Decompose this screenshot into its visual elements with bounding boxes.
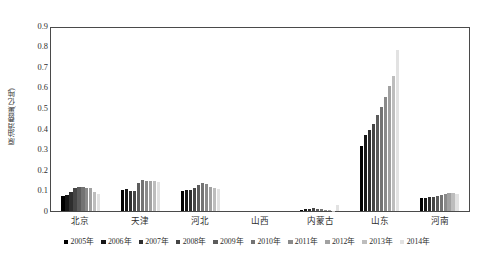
legend-swatch-icon	[176, 240, 181, 245]
legend-label: 2009年	[220, 238, 244, 246]
bar	[432, 197, 435, 211]
bar	[149, 181, 152, 212]
legend-swatch-icon	[251, 240, 256, 245]
legend-item[interactable]: 2008年	[176, 238, 206, 246]
legend-swatch-icon	[101, 240, 106, 245]
chart-legend: 2005年2006年2007年2008年2009年2010年2011年2012年…	[0, 238, 494, 246]
bar	[209, 187, 212, 211]
bar	[65, 195, 68, 211]
bar-groups	[51, 28, 469, 211]
bar	[428, 197, 431, 211]
bar	[444, 194, 447, 211]
y-axis-tick-8: 0.1	[22, 187, 48, 195]
y-axis-tick-7: 0.2	[22, 167, 48, 175]
legend-item[interactable]: 2011年	[288, 238, 318, 246]
bar	[396, 50, 399, 211]
x-axis-label-5: 山东	[350, 214, 410, 230]
bar	[376, 115, 379, 211]
legend-label: 2007年	[145, 238, 169, 246]
bar	[328, 210, 331, 211]
x-axis-label-1: 天津	[110, 214, 170, 230]
y-axis-tick-labels: 0.90.80.70.60.50.40.30.20.10	[18, 0, 48, 260]
x-axis-label-6: 河南	[410, 214, 470, 230]
bar	[145, 181, 148, 212]
y-axis-tick-4: 0.5	[22, 105, 48, 113]
bar	[304, 209, 307, 211]
legend-swatch-icon	[400, 240, 405, 245]
x-axis-label-4: 内蒙古	[290, 214, 350, 230]
bar	[69, 192, 72, 211]
bar	[300, 210, 303, 211]
legend-item[interactable]: 2006年	[101, 238, 131, 246]
bar	[316, 209, 319, 211]
bar	[424, 198, 427, 211]
legend-label: 2008年	[183, 238, 207, 246]
y-axis-tick-2: 0.7	[22, 64, 48, 72]
legend-swatch-icon	[64, 240, 69, 245]
bar	[320, 209, 323, 211]
bar	[181, 191, 184, 211]
bar	[384, 97, 387, 211]
bar	[129, 191, 132, 211]
bar-group	[350, 28, 410, 211]
bar-group	[230, 28, 290, 211]
legend-swatch-icon	[325, 240, 330, 245]
bar	[73, 188, 76, 211]
bar	[380, 107, 383, 211]
x-axis-label-0: 北京	[50, 214, 110, 230]
plot-area	[50, 27, 470, 212]
legend-label: 2013年	[369, 238, 393, 246]
bar	[360, 146, 363, 211]
x-axis-label-3: 山西	[230, 214, 290, 230]
bar	[388, 86, 391, 211]
bar	[193, 188, 196, 211]
bar	[77, 187, 80, 211]
bar	[197, 185, 200, 211]
bar	[308, 209, 311, 211]
legend-item[interactable]: 2012年	[325, 238, 355, 246]
bar	[420, 198, 423, 211]
bar	[213, 188, 216, 211]
bar	[157, 182, 160, 211]
y-axis-title-text: 原油消费量(亿吨)	[6, 88, 17, 146]
bar	[364, 135, 367, 211]
bar	[61, 196, 64, 211]
legend-item[interactable]: 2010年	[251, 238, 281, 246]
legend-label: 2005年	[71, 238, 95, 246]
bar	[121, 190, 124, 211]
bar	[205, 184, 208, 211]
y-axis-tick-5: 0.4	[22, 126, 48, 134]
legend-swatch-icon	[362, 240, 367, 245]
y-axis-tick-9: 0	[22, 208, 48, 216]
legend-swatch-icon	[139, 240, 144, 245]
bar	[93, 192, 96, 211]
bar	[153, 181, 156, 211]
legend-swatch-icon	[213, 240, 218, 245]
legend-item[interactable]: 2009年	[213, 238, 243, 246]
x-axis-label-2: 河北	[170, 214, 230, 230]
legend-swatch-icon	[288, 240, 293, 245]
legend-item[interactable]: 2013年	[362, 238, 392, 246]
bar	[189, 190, 192, 211]
bar	[97, 194, 100, 211]
chart-figure: 原油消费量(亿吨) 0.90.80.70.60.50.40.30.20.10 北…	[0, 0, 494, 260]
legend-item[interactable]: 2007年	[139, 238, 169, 246]
bar-group	[51, 28, 111, 211]
bar	[455, 194, 458, 211]
bar	[185, 190, 188, 211]
legend-label: 2006年	[108, 238, 132, 246]
y-axis-tick-3: 0.6	[22, 84, 48, 92]
bar	[137, 183, 140, 211]
bar	[85, 188, 88, 211]
bar	[125, 189, 128, 211]
bar	[201, 183, 204, 211]
x-axis-category-labels: 北京天津河北山西内蒙古山东河南	[50, 214, 470, 230]
legend-item[interactable]: 2014年	[400, 238, 430, 246]
bar	[81, 187, 84, 211]
y-axis-tick-0: 0.9	[22, 23, 48, 31]
bar	[392, 76, 395, 211]
legend-item[interactable]: 2005年	[64, 238, 94, 246]
bar	[368, 130, 371, 211]
bar	[447, 193, 450, 211]
y-axis-tick-6: 0.3	[22, 146, 48, 154]
